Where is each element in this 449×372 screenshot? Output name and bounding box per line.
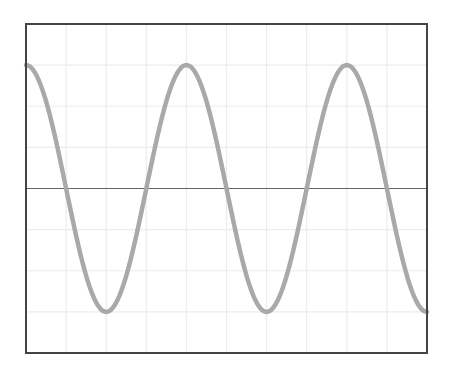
waveform-chart	[0, 0, 449, 372]
